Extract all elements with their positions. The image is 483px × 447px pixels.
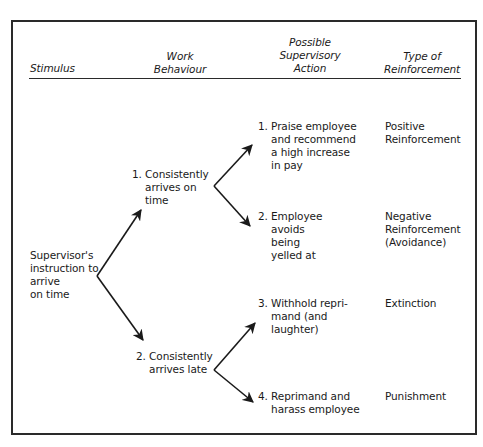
arrow-behaviour-2-to-action-4 bbox=[214, 370, 253, 402]
arrow-behaviour-2-to-action-3 bbox=[214, 323, 255, 370]
arrow-behaviour-1-to-action-1 bbox=[214, 145, 252, 186]
arrows-layer bbox=[0, 0, 483, 447]
arrow-stimulus-to-behaviour-1 bbox=[97, 210, 141, 276]
arrow-stimulus-to-behaviour-2 bbox=[97, 276, 143, 340]
arrow-behaviour-1-to-action-2 bbox=[214, 186, 250, 226]
